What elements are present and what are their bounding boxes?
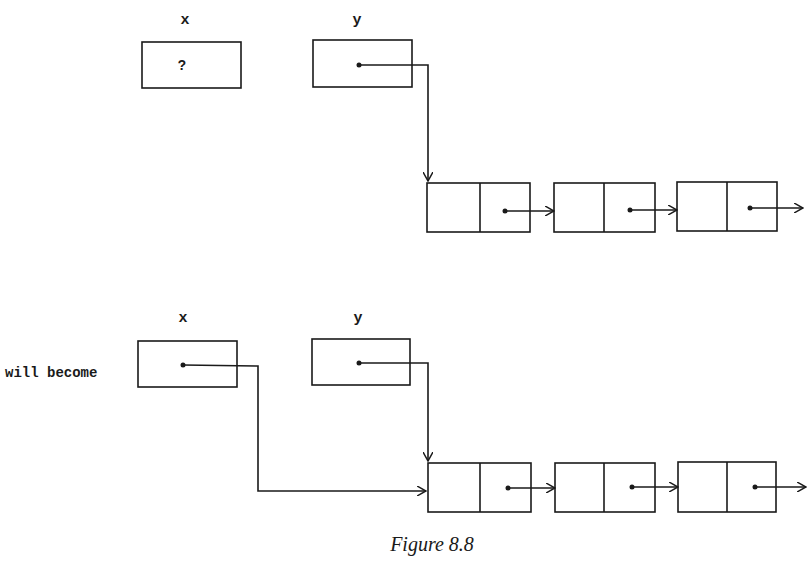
var-x-label: x [178,310,187,327]
var-x-box [138,341,237,387]
list-node [678,462,806,512]
y-pointer-arrow [359,65,428,181]
var-y-box [313,40,412,87]
list-node [427,183,554,232]
will-become-label: will become [5,365,97,381]
list-node [428,463,555,512]
list-node [555,463,678,512]
y-pointer-arrow [359,363,428,461]
var-x-box [142,42,241,88]
figure-caption: Figure 8.8 [389,533,474,556]
var-x-label: x [180,12,189,29]
var-x-value: ? [178,58,186,74]
x-pointer-arrow [183,365,426,491]
var-y-label: y [352,12,361,29]
list-node [677,182,803,231]
linked-list-diagram: x ? y will become x [0,0,811,563]
before-state: x ? y [142,12,803,232]
after-state: x y [138,310,806,512]
list-node [554,183,677,232]
var-y-label: y [353,310,362,327]
